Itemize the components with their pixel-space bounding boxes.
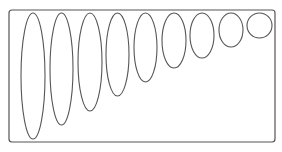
ellipse-9 <box>247 13 272 38</box>
frame-rectangle <box>9 10 275 142</box>
ellipse-8 <box>219 13 243 47</box>
ellipse-5 <box>134 13 157 82</box>
ellipse-2 <box>50 13 73 125</box>
ellipse-3 <box>78 13 102 111</box>
ellipse-6 <box>162 13 186 68</box>
ellipse-group <box>21 13 272 139</box>
ellipse-4 <box>106 13 129 96</box>
ellipse-7 <box>190 13 214 58</box>
ellipse-diagram <box>0 0 282 152</box>
ellipse-1 <box>21 13 45 139</box>
